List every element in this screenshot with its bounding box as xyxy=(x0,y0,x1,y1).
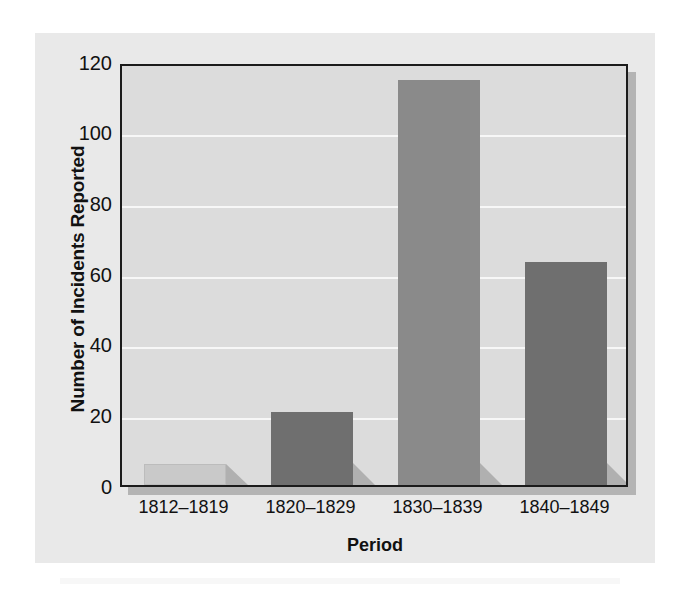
plot-area xyxy=(120,64,628,487)
y-tick-label: 60 xyxy=(52,265,112,285)
bar-chart-figure: Number of Incidents Reported 120 100 80 … xyxy=(0,0,680,614)
bar-1820-1829[interactable] xyxy=(271,412,353,485)
y-tick-label: 20 xyxy=(52,406,112,426)
y-tick-label: 100 xyxy=(52,123,112,143)
bar-shadow xyxy=(226,464,248,485)
bar-slot xyxy=(249,66,376,485)
x-tick-label: 1812–1819 xyxy=(120,498,247,528)
x-axis-title: Period xyxy=(120,535,630,556)
y-axis-tick-labels: 120 100 80 60 40 20 0 xyxy=(48,0,112,614)
bar-shadow xyxy=(480,80,502,485)
bar-slot xyxy=(376,66,503,485)
bar-slot xyxy=(122,66,249,485)
bar-1840-1849[interactable] xyxy=(525,262,607,485)
bar-shadow xyxy=(353,412,375,485)
x-tick-label: 1820–1829 xyxy=(247,498,374,528)
bar-shadow xyxy=(607,262,628,485)
y-tick-label: 40 xyxy=(52,335,112,355)
y-tick-label: 80 xyxy=(52,194,112,214)
y-tick-label: 120 xyxy=(52,53,112,73)
bar-1812-1819[interactable] xyxy=(144,464,226,485)
x-axis-tick-labels: 1812–1819 1820–1829 1830–1839 1840–1849 xyxy=(120,498,628,528)
y-tick-label: 0 xyxy=(52,477,112,497)
bar-1830-1839[interactable] xyxy=(398,80,480,485)
x-tick-label: 1840–1849 xyxy=(501,498,628,528)
bar-slot xyxy=(503,66,628,485)
scan-smudge xyxy=(60,578,620,584)
x-tick-label: 1830–1839 xyxy=(374,498,501,528)
